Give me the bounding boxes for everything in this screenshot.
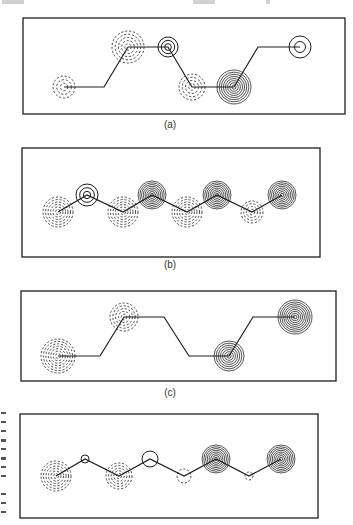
bond-path [58, 195, 282, 212]
bond-path [64, 47, 300, 87]
panel-a [23, 18, 345, 114]
panel-label-a: (a) [155, 119, 185, 130]
panel-d [20, 414, 318, 518]
panel-frame [23, 18, 345, 114]
panel-label-b: (b) [155, 259, 185, 270]
panel-c [21, 291, 336, 381]
panel-b [22, 148, 320, 257]
bond-path [56, 459, 281, 476]
panel-frame [21, 291, 336, 381]
figure-page: (a) (b) (c) [0, 0, 353, 525]
panel-frame [22, 148, 320, 257]
panel-label-c: (c) [155, 387, 185, 398]
bond-path [58, 317, 295, 356]
